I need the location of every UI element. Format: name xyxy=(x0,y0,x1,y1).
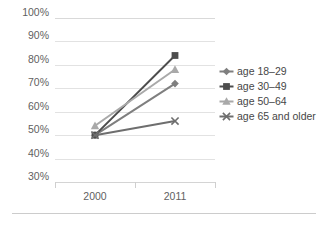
legend-label: age 30–49 xyxy=(237,80,287,92)
legend-item[interactable]: age 65 and older xyxy=(219,109,328,123)
legend-item[interactable]: age 50–64 xyxy=(219,94,328,108)
data-point-marker-diamond xyxy=(223,67,231,75)
legend: age 18–29age 30–49age 50–64age 65 and ol… xyxy=(219,64,328,124)
line-chart: 100%90%80%70%60%50%40%30% 20002011 age 1… xyxy=(0,0,328,227)
legend-marker-icon xyxy=(219,96,234,107)
legend-item[interactable]: age 18–29 xyxy=(219,64,328,78)
series-line xyxy=(95,70,175,126)
legend-marker-icon xyxy=(219,81,234,92)
legend-label: age 65 and older xyxy=(237,110,316,122)
series-group xyxy=(91,65,179,129)
legend-label: age 50–64 xyxy=(237,95,287,107)
series-group xyxy=(92,52,179,138)
legend-item[interactable]: age 30–49 xyxy=(219,79,328,93)
legend-marker-icon xyxy=(219,66,234,77)
data-point-marker-triangle xyxy=(171,65,179,73)
series-group xyxy=(91,80,179,139)
data-point-marker-square xyxy=(223,83,230,90)
data-point-marker-square xyxy=(172,52,179,59)
legend-marker-icon xyxy=(219,111,234,122)
legend-label: age 18–29 xyxy=(237,65,287,77)
bottom-divider xyxy=(12,213,316,214)
